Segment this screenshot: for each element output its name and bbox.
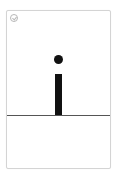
baseline-divider [7, 115, 110, 116]
check-circle-icon [10, 14, 18, 22]
glyph-card[interactable]: i [6, 10, 111, 169]
glyph-dot [54, 55, 63, 64]
glyph-stem [55, 74, 62, 116]
